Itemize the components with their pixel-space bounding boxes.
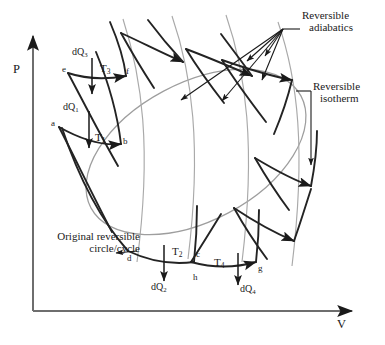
adiabatics-leader-fan [181, 29, 300, 101]
heat-label-dq4-base: dQ [240, 283, 252, 294]
adiabatic-from-f [110, 22, 126, 76]
callout-isotherm-line1: Reversible [313, 80, 360, 92]
point-label-a: a [51, 118, 55, 128]
adiabatic-guide-curves [123, 15, 299, 266]
heat-label-dq1: dQ1 [63, 101, 79, 112]
adiabatic-right-upper-right [274, 80, 292, 134]
diagram-canvas [0, 0, 385, 345]
adiabatic-from-e [68, 73, 118, 166]
heat-label-dq1-base: dQ [63, 101, 75, 112]
heat-label-dq3-sub: 3 [84, 51, 87, 58]
callout-original-line2: circle/cycle [32, 242, 140, 254]
heat-label-dq2-sub: 2 [163, 286, 166, 293]
point-label-c: c [196, 249, 200, 259]
adiabatics-leader-3 [247, 29, 283, 61]
isotherm-upper-mid [121, 33, 183, 62]
temperature-label-t2-sub: 2 [179, 250, 183, 259]
isotherm-e-f [68, 73, 126, 78]
callout-adiabatics-line2: adiabatics [309, 21, 353, 33]
temperature-label-t3-base: T [100, 62, 107, 74]
point-label-h: h [193, 272, 198, 282]
heat-label-dq4-sub: 4 [252, 288, 255, 295]
point-label-e: e [62, 64, 66, 74]
temperature-label-t3: T3 [100, 62, 110, 74]
temperature-label-t2: T2 [172, 245, 182, 257]
temperature-label-t2-base: T [172, 245, 179, 257]
temperature-label-t4: T4 [214, 256, 224, 268]
callout-reversible-adiabatics: Reversible adiabatics [302, 9, 353, 34]
isotherm-a-b [59, 127, 121, 144]
heat-label-dq2-base: dQ [151, 281, 163, 292]
temperature-label-t3-sub: 3 [107, 67, 111, 76]
heat-label-dq3-base: dQ [72, 46, 84, 57]
x-axis-label: V [337, 317, 346, 331]
adiabatic-from-g [256, 210, 259, 262]
adiabatic-upper-mid-right [148, 20, 183, 62]
temperature-label-t4-sub: 4 [221, 261, 225, 270]
point-label-g: g [258, 263, 263, 273]
callout-leaders [116, 29, 311, 253]
callout-reversible-isotherm: Reversible isotherm [313, 80, 360, 105]
adiabatic-lower-right-left [234, 208, 267, 259]
point-label-b: b [123, 136, 128, 146]
temperature-label-t1-sub: 1 [102, 136, 106, 145]
callout-original-reversible-cycle: Original reversible circle/cycle [32, 230, 140, 255]
heat-label-dq2: dQ2 [151, 281, 167, 292]
adiabatic-guide-3 [226, 15, 249, 262]
adiabatic-right-mid-right [311, 131, 317, 186]
callout-original-line1: Original reversible [32, 230, 140, 242]
temperature-label-t1: T1 [95, 131, 105, 143]
heat-label-dq3: dQ3 [72, 46, 88, 57]
pv-diagram-figure: P V a b c d e f g h dQ1 dQ2 dQ3 dQ4 T1 T… [0, 0, 385, 345]
temperature-label-t1-base: T [95, 131, 102, 143]
adiabatic-right-mid-left [255, 158, 289, 210]
temperature-label-t4-base: T [214, 256, 221, 268]
heat-label-dq4: dQ4 [240, 283, 256, 294]
point-label-f: f [126, 66, 129, 76]
callout-isotherm-line2: isotherm [320, 92, 360, 104]
y-axis-label: P [13, 62, 20, 76]
heat-label-dq1-sub: 1 [75, 106, 78, 113]
adiabatic-guide-4 [278, 22, 299, 266]
callout-adiabatics-line1: Reversible [302, 9, 353, 21]
